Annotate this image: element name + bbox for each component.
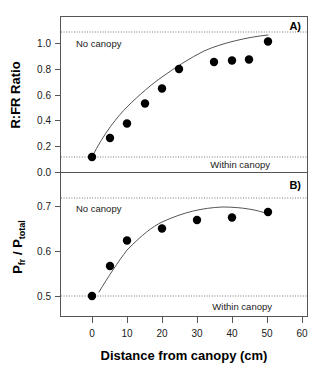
- data-point: [106, 262, 114, 270]
- panel-b-within-canopy-label: Within canopy: [212, 301, 272, 312]
- panel-a-fit-curve: [92, 35, 268, 157]
- panel-b-fit-curve: [99, 207, 268, 292]
- ylabel-b-mid: / P: [10, 239, 25, 259]
- data-point: [106, 134, 114, 142]
- panel-a: 0.0 0.2 0.4 0.6 0.8 1.0 R:FR Ratio No ca…: [8, 17, 308, 179]
- panel-b: 0.5 0.6 0.7 Pfr / Ptotal No canopy Withi…: [10, 173, 308, 317]
- panel-a-letter: A): [289, 20, 301, 32]
- data-point: [141, 99, 149, 107]
- data-point: [88, 292, 96, 300]
- panel-b-y-ticks: [55, 207, 61, 297]
- panel-a-no-canopy-label: No canopy: [76, 38, 122, 49]
- x-tick-label-10: 10: [121, 328, 133, 339]
- data-point: [175, 65, 183, 73]
- y-tick-label-a-2: 0.4: [37, 115, 51, 126]
- y-tick-label-b-2: 0.7: [37, 201, 51, 212]
- x-axis: 0 10 20 30 40 50 60 Distance from canopy…: [89, 317, 308, 364]
- ylabel-b-sub2: total: [17, 220, 27, 239]
- x-tick-label-60: 60: [296, 328, 308, 339]
- panel-a-within-canopy-label: Within canopy: [210, 159, 270, 170]
- ylabel-b-p1: P: [10, 265, 25, 274]
- panel-b-frame: [61, 173, 308, 317]
- panel-b-no-canopy-label: No canopy: [76, 203, 122, 214]
- data-point: [228, 213, 236, 221]
- x-ticks: [93, 317, 303, 324]
- data-point: [228, 56, 236, 64]
- x-tick-label-50: 50: [261, 328, 273, 339]
- y-tick-label-b-0: 0.5: [37, 291, 51, 302]
- data-point: [123, 236, 131, 244]
- x-tick-label-20: 20: [156, 328, 168, 339]
- x-tick-label-0: 0: [89, 328, 95, 339]
- data-point: [245, 55, 253, 63]
- panel-a-data-points: [88, 37, 272, 161]
- y-tick-label-a-1: 0.2: [37, 141, 51, 152]
- panel-a-y-ticks: [55, 44, 61, 173]
- panel-b-y-axis-title: Pfr / Ptotal: [10, 220, 27, 274]
- y-tick-label-b-1: 0.6: [37, 246, 51, 257]
- y-tick-label-a-3: 0.6: [37, 90, 51, 101]
- y-tick-label-a-4: 0.8: [37, 64, 51, 75]
- x-tick-label-40: 40: [226, 328, 238, 339]
- data-point: [193, 216, 201, 224]
- data-point: [264, 37, 272, 45]
- x-axis-title: Distance from canopy (cm): [101, 348, 268, 363]
- panel-b-data-points: [88, 208, 272, 300]
- data-point: [123, 119, 131, 127]
- y-tick-label-a-0: 0.0: [37, 167, 51, 178]
- data-point: [158, 84, 166, 92]
- panel-b-y-axis-title-text: Pfr / Ptotal: [10, 220, 27, 274]
- panel-b-letter: B): [289, 179, 301, 191]
- y-tick-label-a-5: 1.0: [37, 38, 51, 49]
- panel-a-y-axis-title: R:FR Ratio: [8, 61, 23, 128]
- data-point: [210, 58, 218, 66]
- two-panel-scatter-figure: 0.0 0.2 0.4 0.6 0.8 1.0 R:FR Ratio No ca…: [0, 0, 324, 374]
- data-point: [264, 208, 272, 216]
- data-point: [158, 224, 166, 232]
- figure-container: 0.0 0.2 0.4 0.6 0.8 1.0 R:FR Ratio No ca…: [0, 0, 324, 374]
- data-point: [88, 153, 96, 161]
- x-tick-label-30: 30: [191, 328, 203, 339]
